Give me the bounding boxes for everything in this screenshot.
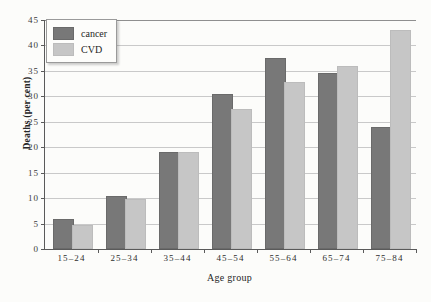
y-axis-title: Deaths (per cent): [22, 38, 32, 188]
legend-swatch-cvd: [53, 43, 74, 56]
y-tick-mark: [41, 147, 45, 148]
chart-legend: cancerCVD: [46, 19, 117, 63]
y-tick-mark: [41, 249, 45, 250]
bar-cancer-15–24: [53, 219, 74, 249]
bar-cvd-15–24: [72, 225, 93, 249]
y-tick-mark: [41, 20, 45, 21]
bar-cancer-35–44: [159, 152, 180, 249]
bar-cvd-35–44: [178, 152, 199, 249]
bar-cancer-25–34: [106, 196, 127, 249]
bar-cvd-25–34: [125, 199, 146, 249]
y-tick-mark: [41, 45, 45, 46]
y-tick-mark: [41, 71, 45, 72]
y-tick-label: 5: [34, 219, 40, 229]
legend-entry: CVD: [53, 41, 107, 57]
bar-cancer-75–84: [371, 127, 392, 249]
y-tick-mark: [41, 173, 45, 174]
y-tick-mark: [41, 224, 45, 225]
bar-group: [265, 20, 303, 249]
bar-chart-figure: Deaths (per cent) 051015202530354045 15–…: [0, 0, 431, 302]
y-tick-label: 15: [28, 168, 39, 178]
bar-group: [212, 20, 250, 249]
x-axis-title: Age group: [44, 272, 415, 283]
bar-cvd-45–54: [231, 109, 252, 249]
legend-entry: cancer: [53, 25, 107, 41]
y-tick-mark: [41, 96, 45, 97]
bar-cvd-65–74: [337, 66, 358, 249]
y-tick-label: 20: [28, 142, 39, 152]
bar-cancer-65–74: [318, 73, 339, 249]
y-tick-mark: [41, 122, 45, 123]
bar-cancer-55–64: [265, 58, 286, 249]
x-tick-label: 75–84: [355, 253, 425, 263]
y-tick-label: 10: [28, 193, 39, 203]
legend-swatch-cancer: [53, 27, 74, 40]
y-tick-label: 25: [28, 117, 39, 127]
legend-label: cancer: [81, 28, 107, 39]
bar-cvd-55–64: [284, 82, 305, 249]
y-tick-label: 40: [28, 40, 39, 50]
bar-cvd-75–84: [390, 30, 411, 249]
y-tick-mark: [41, 198, 45, 199]
bar-group: [159, 20, 197, 249]
bar-cancer-45–54: [212, 94, 233, 249]
y-tick-label: 35: [28, 66, 39, 76]
bar-group: [371, 20, 409, 249]
y-tick-label: 30: [28, 91, 39, 101]
bar-group: [318, 20, 356, 249]
legend-label: CVD: [81, 44, 102, 55]
y-tick-label: 45: [28, 15, 39, 25]
